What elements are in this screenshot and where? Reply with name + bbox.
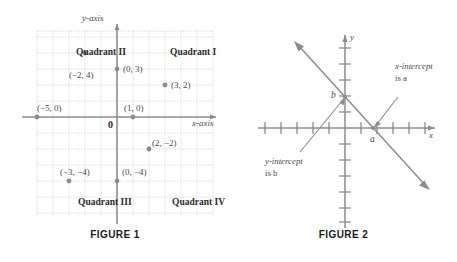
coordinate-grid: [37, 31, 213, 216]
point-marker: [115, 179, 120, 184]
line-arrowhead-lower-right: [419, 181, 430, 191]
y-intercept-note-line2: is b: [265, 169, 303, 178]
figure-2: y x b a x-intercept is a y-intercept is …: [230, 0, 457, 262]
x-axis-label: x: [429, 131, 433, 140]
x-intercept-leader: [373, 97, 398, 128]
quadrant-label-2: Quadrant II: [76, 48, 126, 58]
figure-2-caption: FIGURE 2: [230, 229, 457, 240]
y-axis-arrowhead: [115, 24, 120, 30]
point-label: (−5, 0): [37, 104, 62, 113]
y-axis-label: y: [350, 33, 354, 42]
x-intercept-note: x-intercept is a: [395, 62, 433, 83]
figure-2-graph: [230, 0, 457, 262]
x-intercept-label: a: [370, 135, 375, 145]
point-marker: [115, 67, 120, 72]
point-label: (3, 2): [171, 81, 191, 90]
x-intercept-note-line1: x-intercept: [395, 61, 433, 71]
quadrant-label-4: Quadrant IV: [172, 198, 225, 208]
origin-label: 0: [108, 120, 113, 130]
figure-1-caption: FIGURE 1: [0, 229, 230, 240]
point-marker: [35, 115, 40, 120]
point-label: (0, −4): [122, 168, 147, 177]
x-axis-label: x-axis: [192, 119, 214, 128]
figure-1-graph: [0, 0, 230, 262]
y-axis-arrowhead: [342, 35, 347, 42]
y-axis-label: y-axis: [82, 14, 104, 23]
point-label: (0, 3): [123, 65, 143, 74]
y-intercept-label: b: [331, 91, 336, 101]
point-marker: [147, 147, 152, 152]
point-label: (2, −2): [152, 139, 177, 148]
point-label: (−3, −4): [60, 168, 90, 177]
point-marker: [163, 83, 168, 88]
point-marker: [67, 179, 72, 184]
quadrant-label-1: Quadrant I: [170, 48, 216, 58]
point-label: (−2, 4): [69, 71, 94, 80]
y-intercept-leader: [300, 97, 345, 152]
point-label: (1, 0): [124, 104, 144, 113]
quadrant-label-3: Quadrant III: [78, 198, 132, 208]
y-intercept-note-line1: y-intercept: [265, 156, 303, 166]
x-intercept-note-line2: is a: [395, 74, 433, 83]
y-intercept-note: y-intercept is b: [265, 157, 303, 178]
figure-1: y-axis x-axis 0 Quadrant II Quadrant I Q…: [0, 0, 230, 262]
point-marker: [131, 115, 136, 120]
